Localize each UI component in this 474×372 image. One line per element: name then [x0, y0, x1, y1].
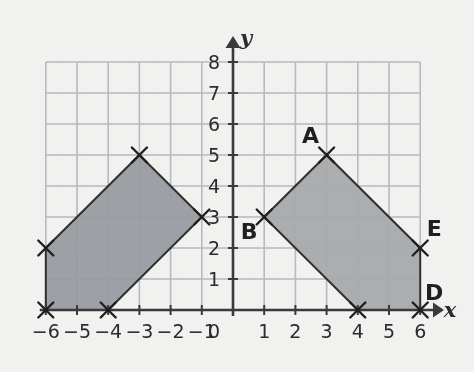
x-tick-label: 4 [352, 320, 364, 342]
x-tick-label: −6 [32, 320, 60, 342]
y-tick-label: 7 [208, 82, 220, 104]
x-tick-label: 6 [414, 320, 426, 342]
x-tick-label: 1 [258, 320, 270, 342]
coordinate-plane-figure: −6−5−4−3−2−1123456 12345678 ABDE x y 0 [0, 0, 474, 372]
y-axis-label: y [239, 25, 254, 50]
y-tick-label: 1 [208, 268, 220, 290]
vertex-label-a: A [302, 123, 319, 148]
y-tick-label: 8 [208, 51, 220, 73]
y-tick-label: 4 [208, 175, 220, 197]
x-tick-label: 5 [383, 320, 395, 342]
x-tick-label: −4 [94, 320, 122, 342]
vertex-label-b: B [241, 219, 258, 244]
x-tick-label: 2 [289, 320, 301, 342]
vertex-label-e: E [427, 216, 442, 241]
x-tick-label: −2 [157, 320, 185, 342]
y-tick-label: 5 [208, 144, 220, 166]
y-tick-label: 2 [208, 237, 220, 259]
x-tick-label: −5 [63, 320, 91, 342]
x-axis-label: x [443, 297, 457, 322]
vertex-label-d: D [425, 280, 443, 305]
x-tick-label: 3 [321, 320, 333, 342]
x-tick-label: −3 [125, 320, 153, 342]
y-tick-label: 3 [208, 206, 220, 228]
figure-canvas: −6−5−4−3−2−1123456 12345678 ABDE x y 0 [0, 0, 474, 372]
origin-label: 0 [208, 320, 220, 342]
y-tick-label: 6 [208, 113, 220, 135]
